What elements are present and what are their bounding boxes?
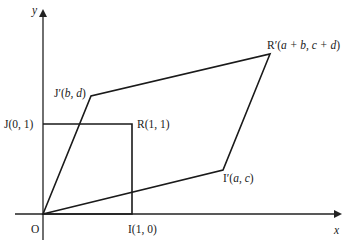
- unit-square: [43, 124, 132, 214]
- point-label-j-prime: J′(b, d): [54, 87, 86, 100]
- diagram-svg: x y O I(1, 0) R(1, 1) J(0, 1) J′(b, d) R…: [0, 0, 355, 248]
- point-label-r-prime: R′(a + b, c + d): [267, 39, 340, 52]
- transformed-parallelogram: [43, 54, 270, 214]
- y-axis-label: y: [31, 4, 38, 17]
- point-label-o: O: [31, 223, 39, 235]
- x-axis-label: x: [333, 224, 340, 236]
- point-label-i-prime: I′(a, c): [223, 172, 254, 185]
- point-label-j: J(0, 1): [4, 118, 34, 131]
- point-label-r: R(1, 1): [137, 118, 170, 131]
- point-label-i: I(1, 0): [128, 223, 157, 236]
- diagram-canvas: x y O I(1, 0) R(1, 1) J(0, 1) J′(b, d) R…: [0, 0, 355, 248]
